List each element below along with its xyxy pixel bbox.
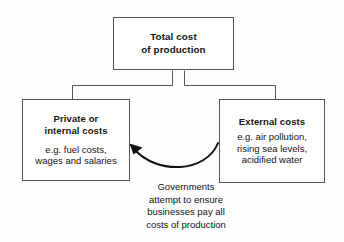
node-private-costs-detail: e.g. fuel costs, wages and salaries xyxy=(35,144,116,168)
connector-to-external-costs xyxy=(185,71,276,100)
node-private-costs: Private or internal costs e.g. fuel cost… xyxy=(22,99,130,181)
node-external-costs-title: External costs xyxy=(239,116,305,128)
node-private-costs-title: Private or internal costs xyxy=(44,113,107,137)
node-total-cost: Total cost of production xyxy=(113,17,234,70)
node-external-costs: External costs e.g. air pollution, risin… xyxy=(219,99,325,183)
diagram-canvas: Total cost of production Private or inte… xyxy=(0,0,344,242)
node-total-cost-title: Total cost of production xyxy=(141,31,205,55)
curved-arrow-head xyxy=(130,144,143,155)
node-external-costs-detail: e.g. air pollution, rising sea levels, a… xyxy=(237,131,307,167)
connector-to-private-costs xyxy=(73,71,173,100)
curved-arrow-shaft xyxy=(134,143,218,167)
arrow-caption: Governments attempt to ensure businesses… xyxy=(131,181,241,231)
